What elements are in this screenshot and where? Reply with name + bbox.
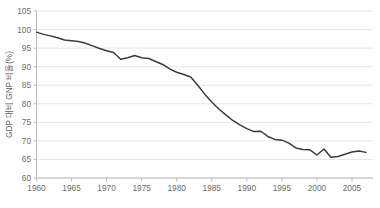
x-tick-label-1965: 1965 [62, 183, 81, 193]
y-tick-label-70: 70 [22, 136, 32, 146]
x-tick-label-1985: 1985 [203, 183, 222, 193]
data-series-line-0 [37, 32, 366, 157]
x-tick-label-2000: 2000 [308, 183, 327, 193]
y-tick-label-65: 65 [22, 154, 32, 164]
x-tick-label-1980: 1980 [167, 183, 186, 193]
y-tick-label-85: 85 [22, 80, 32, 90]
x-tick-label-1995: 1995 [273, 183, 292, 193]
x-tick-label-1975: 1975 [132, 183, 151, 193]
y-tick-label-60: 60 [22, 173, 32, 183]
y-tick-label-105: 105 [17, 6, 31, 16]
x-tick-label-1970: 1970 [97, 183, 116, 193]
y-tick-label-95: 95 [22, 43, 32, 53]
y-tick-label-90: 90 [22, 62, 32, 72]
x-tick-label-2005: 2005 [343, 183, 362, 193]
chart-container: 6065707580859095100105196019651970197519… [0, 0, 380, 208]
line-chart: 6065707580859095100105196019651970197519… [0, 0, 380, 208]
x-tick-label-1990: 1990 [238, 183, 257, 193]
x-tick-label-1960: 1960 [27, 183, 46, 193]
y-tick-label-100: 100 [17, 25, 31, 35]
y-axis-title: GDP 대비 GNP 비율(%) [5, 51, 14, 138]
y-tick-label-75: 75 [22, 117, 32, 127]
y-tick-label-80: 80 [22, 99, 32, 109]
